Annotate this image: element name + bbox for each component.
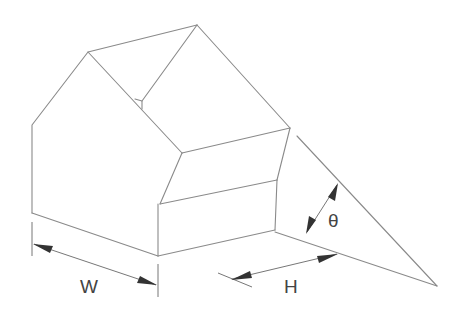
slope-triangle (275, 136, 437, 286)
right-gable-rake (197, 25, 290, 128)
height-arrow-right (317, 254, 338, 263)
angle-arrow-top (328, 183, 338, 201)
lower-box-right-vertical (275, 180, 277, 230)
lower-box-bottom-edge (158, 230, 275, 256)
lower-box-top-edge (160, 180, 277, 204)
width-arrow-right (137, 276, 157, 285)
width-label: W (80, 276, 98, 297)
angle-label: θ (328, 210, 339, 231)
height-dimension (218, 254, 338, 287)
roof-eave (182, 128, 290, 153)
angle-arrow-bottom (306, 216, 316, 234)
height-label: H (284, 276, 298, 297)
sloped-wall-front-edge (160, 153, 182, 204)
house-outline (32, 25, 290, 256)
slope-line (297, 136, 437, 286)
height-arrow-left (231, 271, 252, 280)
sloped-wall-right-edge (277, 128, 290, 180)
house-diagram: W H θ (0, 0, 467, 332)
width-arrow-left (33, 244, 53, 253)
ground-reference-line (275, 232, 437, 286)
